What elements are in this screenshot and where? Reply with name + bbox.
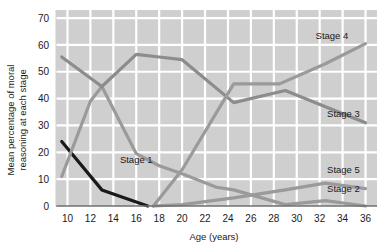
y-tick-label: 40 xyxy=(38,93,50,104)
series-label-stage-2: Stage 2 xyxy=(327,183,360,194)
y-tick-label: 50 xyxy=(38,66,50,77)
series-label-stage-3: Stage 3 xyxy=(327,108,360,119)
x-tick-label: 32 xyxy=(314,213,326,224)
y-tick-label: 70 xyxy=(38,13,50,24)
x-axis-title: Age (years) xyxy=(189,231,238,242)
series-label-stage-4: Stage 4 xyxy=(316,30,349,41)
series-label-stage-1: Stage 1 xyxy=(120,154,153,165)
y-tick-label: 0 xyxy=(43,201,49,212)
y-tick-label: 60 xyxy=(38,40,50,51)
y-axis-title-line-2: reasoning at each stage xyxy=(17,69,28,170)
y-axis-tick-labels: 010203040506070 xyxy=(38,13,50,212)
y-tick-label: 30 xyxy=(38,120,50,131)
chart-canvas: 010203040506070 101214161820222426283032… xyxy=(0,0,383,246)
y-tick-label: 10 xyxy=(38,174,50,185)
x-axis-tick-labels: 1012141618202224262830323436 xyxy=(62,213,372,224)
x-tick-label: 26 xyxy=(245,213,257,224)
x-tick-label: 22 xyxy=(199,213,211,224)
series-label-stage-5: Stage 5 xyxy=(327,164,360,175)
x-tick-label: 12 xyxy=(85,213,97,224)
x-tick-label: 34 xyxy=(337,213,349,224)
x-tick-label: 36 xyxy=(360,213,372,224)
x-tick-label: 18 xyxy=(154,213,166,224)
x-tick-label: 10 xyxy=(62,213,74,224)
x-tick-label: 14 xyxy=(108,213,120,224)
moral-reasoning-line-chart: 010203040506070 101214161820222426283032… xyxy=(0,0,383,246)
x-tick-label: 30 xyxy=(291,213,303,224)
y-axis-title: Mean percentage of moral reasoning at ea… xyxy=(5,65,28,176)
x-tick-label: 16 xyxy=(131,213,143,224)
y-axis-title-line-1: Mean percentage of moral xyxy=(5,65,16,176)
x-tick-label: 24 xyxy=(222,213,234,224)
x-tick-label: 28 xyxy=(268,213,280,224)
x-tick-label: 20 xyxy=(177,213,189,224)
y-tick-label: 20 xyxy=(38,147,50,158)
